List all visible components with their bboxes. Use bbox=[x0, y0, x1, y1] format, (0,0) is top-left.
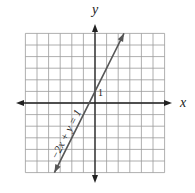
line-arrow-top-icon bbox=[118, 33, 124, 41]
x-axis-left-arrow-icon bbox=[16, 100, 24, 106]
y-axis-label: y bbox=[90, 2, 99, 17]
y-axis-up-arrow-icon bbox=[92, 24, 98, 32]
y-axis-down-arrow-icon bbox=[92, 175, 98, 183]
x-axis-label: x bbox=[179, 95, 187, 110]
line-arrow-bottom-icon bbox=[54, 164, 60, 172]
equation-label: −2x + y = 1 bbox=[48, 107, 83, 161]
intercept-tick-label: 1 bbox=[98, 87, 103, 98]
x-axis-right-arrow-icon bbox=[164, 100, 172, 106]
coordinate-plane: y x 1 −2x + y = 1 bbox=[0, 0, 195, 193]
